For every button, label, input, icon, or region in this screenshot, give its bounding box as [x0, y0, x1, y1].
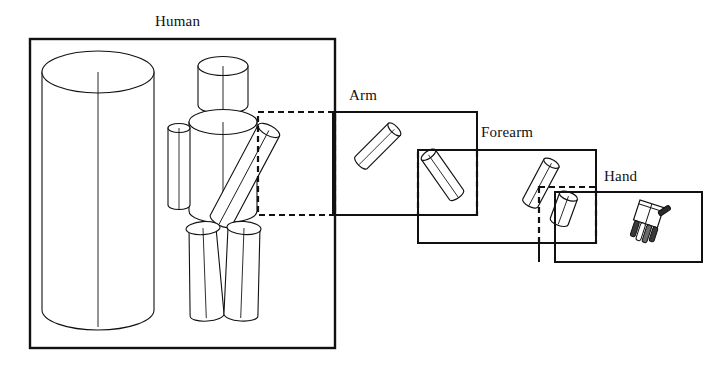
left-leg-cylinder — [184, 220, 227, 322]
forearm-label: Forearm — [481, 124, 533, 141]
head-cylinder — [198, 57, 248, 115]
figure-canvas: Human Arm Forearm Hand — [0, 0, 727, 366]
arm-level-group — [333, 112, 477, 215]
right-leg-cylinder — [221, 220, 265, 322]
human-background-cylinder — [42, 51, 154, 330]
hand-figure — [628, 196, 672, 247]
arm-label: Arm — [349, 87, 377, 104]
forearm-hand-block — [549, 189, 579, 228]
human-level-group — [30, 39, 335, 348]
hand-box — [555, 192, 702, 262]
arm-forearm-cylinder — [419, 147, 465, 203]
human-label: Human — [155, 13, 200, 30]
left-arm-cylinder — [168, 124, 190, 210]
hand-label: Hand — [604, 168, 637, 185]
hand-level-group — [555, 192, 702, 262]
arm-upper-cylinder — [353, 121, 403, 171]
